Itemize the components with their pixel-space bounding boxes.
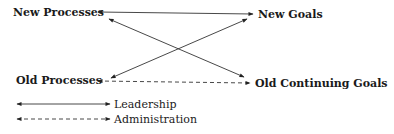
diagram-svg: New Processes New Goals Old Processes Ol… — [0, 0, 394, 134]
node-old-processes: Old Processes — [16, 74, 102, 87]
node-new-processes: New Processes — [13, 6, 104, 19]
diagram-canvas: New Processes New Goals Old Processes Ol… — [0, 0, 394, 134]
legend: Leadership Administration — [17, 98, 197, 126]
edge-old-processes-old-continuing-goals — [98, 81, 250, 83]
edge-new-processes-old-continuing-goals — [109, 19, 244, 77]
legend-leadership-label: Leadership — [114, 98, 176, 111]
node-new-goals: New Goals — [258, 8, 323, 21]
legend-administration-label: Administration — [113, 113, 197, 126]
node-old-continuing-goals: Old Continuing Goals — [255, 77, 388, 90]
edge-new-processes-new-goals — [98, 12, 253, 14]
